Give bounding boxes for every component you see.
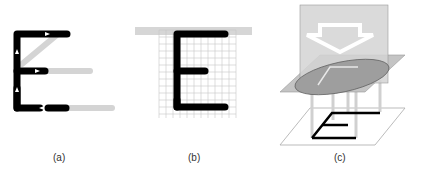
panel-a-label: (a) <box>53 152 65 163</box>
panel-c: (c) <box>250 0 421 176</box>
panel-a: (a) <box>0 0 130 176</box>
projection-diagram <box>250 0 421 150</box>
panel-c-label: (c) <box>334 152 346 163</box>
pixel-grid-e <box>125 0 255 150</box>
panel-b: (b) <box>125 0 255 176</box>
stroke-e-diagram <box>0 0 130 150</box>
panel-b-label: (b) <box>188 152 200 163</box>
